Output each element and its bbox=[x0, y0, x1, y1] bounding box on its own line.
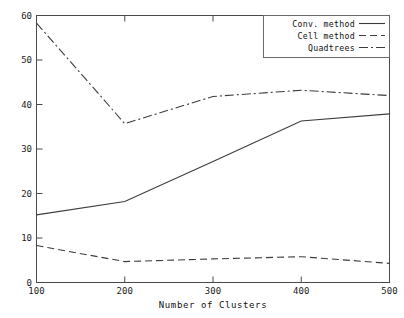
y-tick-label: 20 bbox=[21, 189, 32, 199]
y-tick-label: 60 bbox=[21, 11, 32, 21]
x-tick-label: 500 bbox=[381, 286, 397, 296]
x-tick-label: 100 bbox=[28, 286, 44, 296]
y-tick-label: 50 bbox=[21, 55, 32, 65]
line-chart: 0 10 20 30 40 50 60 100 200 300 400 bbox=[0, 0, 404, 318]
chart-container: 0 10 20 30 40 50 60 100 200 300 400 bbox=[0, 0, 404, 318]
y-tick-label: 40 bbox=[21, 100, 32, 110]
x-tick-label: 400 bbox=[293, 286, 309, 296]
x-tick-label: 300 bbox=[205, 286, 221, 296]
x-tick-label: 200 bbox=[117, 286, 133, 296]
legend-label-conv-method: Conv. method bbox=[292, 19, 355, 29]
y-tick-label: 10 bbox=[21, 233, 32, 243]
legend-label-cell-method: Cell method bbox=[297, 31, 355, 41]
x-axis-title: Number of Clusters bbox=[159, 300, 267, 310]
legend: Conv. method Cell method Quadtrees bbox=[264, 16, 390, 58]
y-tick-label: 30 bbox=[21, 144, 32, 154]
legend-label-quadtrees: Quadtrees bbox=[308, 43, 355, 53]
